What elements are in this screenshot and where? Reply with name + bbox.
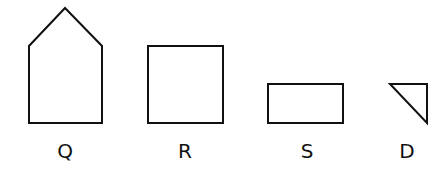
- pentagon-q: [29, 8, 102, 123]
- triangle-d: [390, 84, 427, 123]
- label-r: R: [178, 139, 192, 163]
- square-r: [148, 46, 223, 123]
- shapes-diagram: Q R S D: [0, 0, 439, 174]
- rectangle-s: [268, 84, 343, 123]
- label-s: S: [301, 139, 314, 163]
- label-q: Q: [57, 139, 73, 163]
- label-d: D: [399, 139, 414, 163]
